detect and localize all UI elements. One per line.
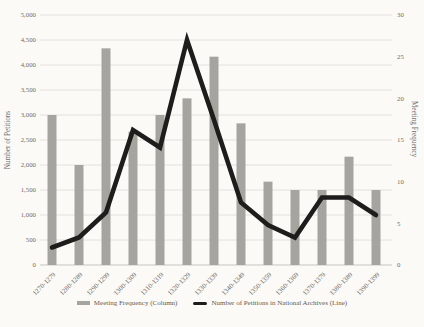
left-axis-tick-label: 2,500: [21, 136, 37, 143]
x-axis-tick-label: 1380-1389: [328, 270, 354, 296]
column-swatch-icon: [77, 301, 90, 305]
bar-1360-1369: [291, 190, 300, 265]
bar-1390-1399: [372, 190, 381, 265]
right-axis-tick-label: 15: [397, 136, 404, 143]
legend: Meeting Frequency (Column) Number of Pet…: [0, 299, 424, 307]
left-axis-tick-label: 3,500: [21, 86, 37, 93]
x-axis-tick-label: 1280-1289: [58, 270, 84, 296]
left-axis-tick-label: 5,000: [21, 11, 37, 18]
x-axis-tick-label: 1290-1299: [85, 270, 111, 296]
left-axis-title: Number of Petitions: [4, 111, 12, 169]
left-axis-tick-label: 3,000: [21, 111, 37, 118]
left-axis-tick-label: 1,500: [21, 186, 37, 193]
left-axis-tick-label: 500: [26, 236, 37, 243]
legend-item-line: Number of Petitions in National Archives…: [193, 299, 347, 307]
x-axis-tick-label: 1340-1349: [220, 270, 246, 296]
bar-1320-1329: [183, 98, 192, 265]
x-axis-tick-label: 1310-1319: [139, 270, 165, 296]
right-axis-title: Meeting Frequency: [410, 101, 418, 157]
bar-1270-1279: [48, 115, 57, 265]
x-axis-tick-label: 1300-1309: [112, 270, 138, 296]
legend-label-line: Number of Petitions in National Archives…: [211, 299, 347, 307]
x-axis-tick-label: 1360-1369: [274, 270, 300, 296]
bar-1330-1339: [210, 57, 219, 265]
bar-1300-1309: [129, 132, 138, 265]
line-swatch-icon: [193, 302, 207, 305]
right-axis-tick-label: 25: [397, 53, 404, 60]
right-axis-tick-label: 5: [397, 220, 401, 227]
x-axis-tick-label: 1350-1359: [247, 270, 273, 296]
right-axis-tick-label: 20: [397, 95, 404, 102]
combo-chart-canvas: 05001,0001,5002,0002,5003,0003,5004,0004…: [0, 0, 424, 327]
legend-label-columns: Meeting Frequency (Column): [94, 299, 178, 307]
right-axis-tick-label: 10: [397, 178, 404, 185]
left-axis-tick-label: 2,000: [21, 161, 37, 168]
bar-1280-1289: [75, 165, 84, 265]
x-axis-tick-label: 1390-1399: [355, 270, 381, 296]
right-axis-tick-label: 0: [397, 261, 401, 268]
left-axis-tick-label: 4,500: [21, 36, 37, 43]
x-axis-tick-label: 1270-1279: [31, 270, 57, 296]
bar-1380-1389: [345, 157, 354, 265]
right-axis-tick-label: 30: [397, 11, 404, 18]
left-axis-tick-label: 4,000: [21, 61, 37, 68]
left-axis-tick-label: 0: [33, 261, 37, 268]
bar-1290-1299: [102, 48, 111, 265]
x-axis-tick-label: 1330-1339: [193, 270, 219, 296]
legend-item-columns: Meeting Frequency (Column): [77, 299, 178, 307]
x-axis-tick-label: 1320-1329: [166, 270, 192, 296]
left-axis-tick-label: 1,000: [21, 211, 37, 218]
chart: 05001,0001,5002,0002,5003,0003,5004,0004…: [0, 0, 424, 327]
x-axis-tick-label: 1370-1379: [301, 270, 327, 296]
